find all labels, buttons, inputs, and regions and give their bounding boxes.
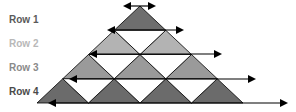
triangle-diagram bbox=[0, 0, 296, 112]
arrowhead-icon bbox=[148, 2, 156, 10]
arrowhead-icon bbox=[280, 99, 288, 107]
arrowhead-icon bbox=[248, 75, 256, 83]
arrowhead-icon bbox=[214, 50, 222, 58]
arrowhead-icon bbox=[123, 2, 131, 10]
triangle-tile bbox=[114, 6, 166, 30]
arrowhead-icon bbox=[176, 26, 184, 34]
